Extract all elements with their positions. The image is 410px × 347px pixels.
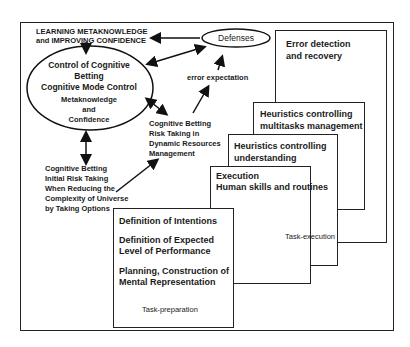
dynamic-betting-1: Cognitive Betting [149,119,211,129]
initial-betting-3: When Reducing the [45,184,115,194]
ellipse-sub-3: Confidence [30,115,148,125]
top-label-line2: and IMPROVING CONFIDENCE [36,36,146,46]
ellipse-sub-1: Metaknowledge [30,95,148,105]
initial-betting-5: by Taking Options [45,204,110,214]
dynamic-betting-4: Management [149,149,195,159]
ellipse-title-2: Betting [30,71,148,82]
dynamic-betting-3: Dynamic Resources [149,139,221,149]
initial-betting-1: Cognitive Betting [45,164,107,174]
ellipse-title-3: Cognitive Mode Control [30,82,148,93]
dynamic-betting-2: Risk Taking in [149,129,199,139]
initial-betting-2: Initial Risk Taking [45,174,108,184]
defenses-label: Defenses [202,33,270,44]
ellipse-title-1: Control of Cognitive [30,60,148,71]
initial-betting-4: Complexity of Universe [45,194,128,204]
ellipse-sub-2: and [30,105,148,115]
error-expectation-label: error expectation [187,73,248,83]
